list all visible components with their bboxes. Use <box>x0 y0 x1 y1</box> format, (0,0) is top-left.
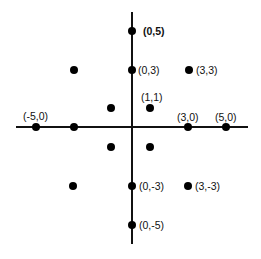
y-axis <box>131 12 133 244</box>
point-dot <box>128 66 136 74</box>
point-label: (3,-3) <box>195 181 220 192</box>
point-dot <box>222 123 230 131</box>
point-dot <box>128 27 136 35</box>
point-label: (0,3) <box>138 65 160 76</box>
point-dot <box>146 104 154 112</box>
point-dot <box>128 182 136 190</box>
point-label: (0,-3) <box>139 181 164 192</box>
point-dot <box>70 123 78 131</box>
point-label: (5,0) <box>215 112 237 123</box>
point-label: (0,-5) <box>139 220 164 231</box>
point-label: (1,1) <box>141 92 163 103</box>
point-label: (0,5) <box>143 26 165 37</box>
point-dot <box>146 143 154 151</box>
point-dot <box>32 123 40 131</box>
point-dot <box>185 66 193 74</box>
point-dot <box>184 182 192 190</box>
point-dot <box>69 182 77 190</box>
point-dot <box>70 66 78 74</box>
point-label: (-5,0) <box>23 111 48 122</box>
coordinate-diagram: (0,5)(0,3)(3,3)(1,1)(-5,0)(3,0)(5,0)(0,-… <box>0 0 261 259</box>
point-dot <box>107 104 115 112</box>
point-label: (3,0) <box>177 112 199 123</box>
point-dot <box>107 143 115 151</box>
point-dot <box>184 123 192 131</box>
point-dot <box>128 221 136 229</box>
point-label: (3,3) <box>196 65 218 76</box>
